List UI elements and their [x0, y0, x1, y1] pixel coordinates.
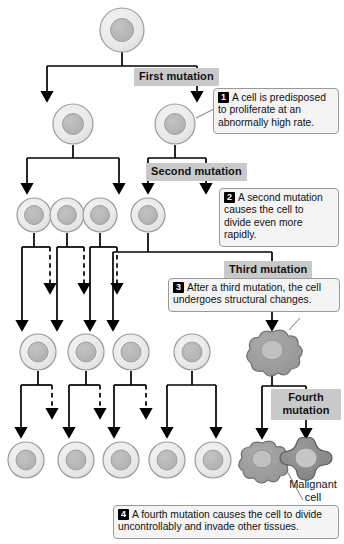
cell-r2-2 — [155, 104, 195, 144]
cell-r2-1 — [53, 104, 93, 144]
callout-1: 1A cell is predisposed to proliferate at… — [213, 88, 339, 134]
stage-label-third-mutation: Third mutation — [224, 261, 312, 279]
callout-4-text: A fourth mutation causes the cell to div… — [118, 509, 322, 532]
cell-r3-4 — [131, 198, 165, 232]
callout-3-number: 3 — [173, 282, 184, 293]
cell-r5-1 — [8, 442, 44, 478]
cell-origin — [100, 8, 144, 52]
callout-2: 2A second mutation causes the cell to di… — [219, 188, 339, 247]
callout-1-number: 1 — [218, 92, 229, 103]
stage-label-second-mutation: Second mutation — [146, 163, 247, 181]
diagram-canvas: First mutation Second mutation Third mut… — [0, 0, 344, 544]
cell-r5-5 — [195, 442, 231, 478]
callout-4-number: 4 — [118, 509, 129, 520]
callout-2-number: 2 — [224, 192, 235, 203]
callout-1-text: A cell is predisposed to proliferate at … — [218, 92, 326, 128]
cell-r5-3 — [103, 442, 139, 478]
cell-r4-2 — [68, 334, 104, 370]
cell-r4-1 — [20, 334, 56, 370]
cell-r5-2 — [58, 442, 94, 478]
callout-4: 4A fourth mutation causes the cell to di… — [113, 505, 339, 539]
callout-2-text: A second mutation causes the cell to div… — [224, 192, 323, 240]
cell-r4-3 — [113, 334, 149, 370]
cell-r5-4 — [149, 442, 185, 478]
callout-3: 3After a third mutation, the cell underg… — [168, 278, 340, 312]
stage-label-fourth-mutation: Fourth mutation — [271, 389, 341, 420]
cell-r4-4 — [174, 334, 210, 370]
cell-r5-7-malignant — [280, 438, 332, 481]
cell-r3-1 — [17, 198, 51, 232]
cell-r3-2 — [50, 198, 84, 232]
cell-r4-5-transitional — [247, 330, 303, 376]
cell-r3-3 — [83, 198, 117, 232]
label-malignant-cell: Malignant cell — [282, 478, 344, 503]
callout-3-text: After a third mutation, the cell undergo… — [173, 282, 321, 305]
stage-label-first-mutation: First mutation — [134, 68, 219, 86]
